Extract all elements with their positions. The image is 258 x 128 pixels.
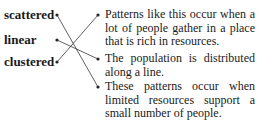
line-linear: [57, 40, 98, 59]
term-clustered: clustered: [4, 55, 54, 69]
term-linear: linear: [4, 33, 37, 47]
line-clustered: [57, 15, 98, 62]
description-3: These patterns occur when limited resour…: [105, 80, 255, 121]
line-scattered: [57, 15, 98, 87]
term-scattered: scattered: [4, 8, 54, 22]
description-2: The population is distributed along a li…: [105, 52, 255, 79]
description-1: Patterns like this occur when a lot of p…: [105, 8, 255, 49]
